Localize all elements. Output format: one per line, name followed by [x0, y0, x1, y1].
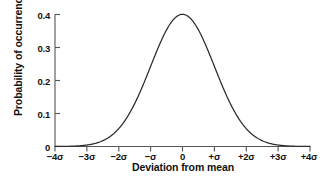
y-axis-ticks	[55, 15, 60, 147]
y-axis-title: Probability of occurrence	[12, 0, 24, 129]
y-tick-label-0.3: 0.3	[24, 42, 50, 53]
y-tick-label-0.4: 0.4	[24, 9, 50, 20]
distribution-curve	[55, 14, 310, 146]
y-tick-label-0.2: 0.2	[24, 75, 50, 86]
normal-distribution-chart: 0 0.1 0.2 0.3 0.4 −4σ −3σ −2σ −σ 0 +σ +2…	[0, 0, 325, 180]
y-tick-label-0.1: 0.1	[24, 108, 50, 119]
x-axis-title: Deviation from mean	[55, 161, 311, 173]
